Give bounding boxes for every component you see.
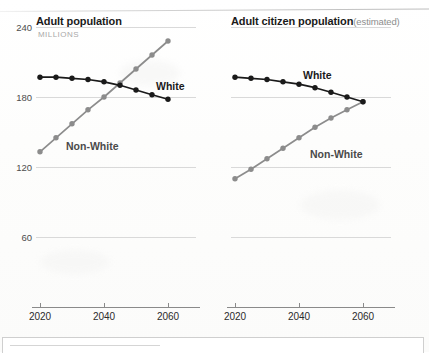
data-point [117,83,122,88]
data-point [264,156,269,161]
xtick-label-2060-right: 2060 [340,311,386,322]
data-point [37,75,42,80]
xtickmark-2040-left [104,303,105,307]
data-point [165,38,170,43]
xtick-label-2040-right: 2040 [276,311,322,322]
xtick-label-2020-left: 2020 [17,311,63,322]
series-label-nonwhite-right: Non-White [310,148,363,160]
data-point [101,94,106,99]
data-point [296,135,301,140]
data-point [312,85,317,90]
series-label-nonwhite-left: Non-White [66,140,119,152]
series-line-white [235,77,363,102]
data-point [133,66,138,71]
chart-adult-population: Adult population MILLIONS 240 180 120 60… [0,0,215,352]
data-point [133,87,138,92]
data-point [69,121,74,126]
data-point [232,176,237,181]
data-point [53,135,58,140]
plot-lines-left [0,0,215,352]
xtickmark-2020-left [40,303,41,307]
data-point [328,115,333,120]
data-point [101,79,106,84]
series-label-white-left: White [156,80,185,92]
data-point [312,125,317,130]
data-point [232,75,237,80]
xaxis-right [227,307,395,308]
data-point [360,99,365,104]
data-point [165,97,170,102]
data-point [53,75,58,80]
data-point [248,76,253,81]
data-point [264,77,269,82]
data-point [37,149,42,154]
xtickmark-2040-right [299,303,300,307]
data-point [149,52,154,57]
data-point [69,76,74,81]
chart-adult-citizen-population: Adult citizen population(estimated) Whit… [215,0,429,352]
data-point [344,94,349,99]
xtickmark-2060-right [363,303,364,307]
scan-edge-bottom-inner [10,345,160,353]
xtick-label-2020-right: 2020 [212,311,258,322]
xtickmark-2060-left [168,303,169,307]
series-label-white-right: White [303,69,332,81]
data-point [248,167,253,172]
data-point [280,146,285,151]
data-point [344,107,349,112]
plot-lines-right [215,0,429,352]
data-point [328,90,333,95]
data-point [85,77,90,82]
xtick-label-2060-left: 2060 [145,311,191,322]
data-point [296,82,301,87]
data-point [85,107,90,112]
data-point [280,79,285,84]
xaxis-left [32,307,200,308]
xtickmark-2020-right [235,303,236,307]
xtick-label-2040-left: 2040 [81,311,127,322]
data-point [149,92,154,97]
